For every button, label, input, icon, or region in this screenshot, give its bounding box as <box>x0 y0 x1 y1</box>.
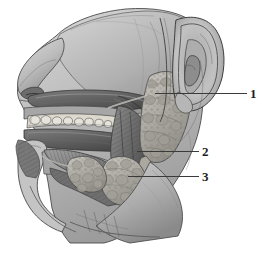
leader-line-2 <box>137 151 199 152</box>
leader-line-3 <box>128 176 199 177</box>
anatomy-figure: 1 2 3 <box>0 0 263 255</box>
label-3: 3 <box>202 170 209 183</box>
label-2: 2 <box>202 145 209 158</box>
label-1: 1 <box>250 87 257 100</box>
salivary-gland-illustration <box>0 0 263 255</box>
leader-line-1 <box>155 93 247 94</box>
